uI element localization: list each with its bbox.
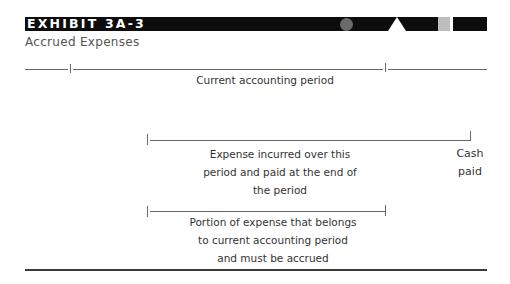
period-start-tick [70,64,71,73]
timeline-line-after [388,69,487,70]
decorative-gap [450,17,453,31]
period-end-tick [385,63,386,72]
accrual-start-tick [147,206,148,217]
period-label: Current accounting period [150,71,380,89]
cash-paid-tick [470,131,471,141]
timeline-line-before [25,69,68,70]
exhibit-title: Accrued Expenses [25,35,140,49]
expense-start-tick [147,134,148,145]
accrual-span-line [150,211,385,212]
cash-paid-label: Cash paid [448,145,492,181]
bottom-rule [25,269,487,271]
decorative-circle-icon [340,18,353,31]
exhibit-label: EXHIBIT 3A-3 [27,16,146,32]
expense-span-label: Expense incurred over this period and pa… [160,145,400,199]
decorative-square-icon [438,17,450,31]
timeline-line-period [73,69,383,70]
expense-span-line [150,140,470,141]
accrual-span-label: Portion of expense that belongs to curre… [160,213,386,267]
decorative-triangle-icon [388,17,406,31]
